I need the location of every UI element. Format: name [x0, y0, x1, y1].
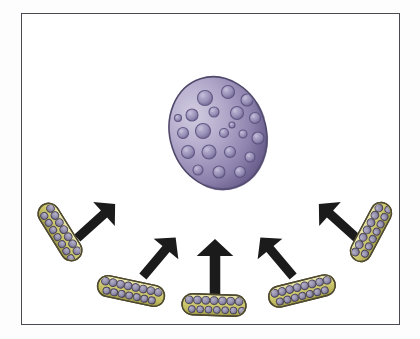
- cell-vesicle-highlight: [254, 134, 258, 138]
- arrow-inner-left: [131, 227, 188, 287]
- arrow-inner-right: [248, 227, 305, 287]
- cell-vesicle-highlight: [188, 111, 192, 115]
- bacterium-granule: [210, 297, 218, 305]
- cell-vesicle: [213, 166, 225, 178]
- cell-vesicle-highlight: [247, 154, 250, 157]
- cell-vesicle-highlight: [180, 130, 183, 133]
- cell-vesicle: [186, 109, 198, 121]
- cell-vesicle: [229, 122, 235, 128]
- cell-vesicle-highlight: [241, 132, 243, 134]
- bacterium-granule: [222, 307, 229, 314]
- cell-vesicle-highlight: [195, 167, 198, 170]
- cell-vesicle: [202, 145, 216, 159]
- cell-vesicle-highlight: [184, 148, 188, 152]
- cell-vesicle-highlight: [237, 169, 240, 172]
- cell-vesicle: [178, 128, 189, 139]
- figure-root: [0, 0, 420, 339]
- cell-vesicle-highlight: [205, 148, 209, 152]
- cell-vesicle: [252, 132, 264, 144]
- bacterium-granule: [188, 305, 195, 312]
- arrow-center: [197, 239, 234, 296]
- bacterium-granule: [205, 306, 212, 313]
- bacterium-lower-right: [266, 273, 337, 310]
- bacterium-lower-left: [96, 274, 167, 309]
- bacterium-granule: [218, 297, 226, 305]
- figure-canvas: [0, 0, 420, 339]
- bacterium-granule: [227, 297, 235, 305]
- cell-vesicle-highlight: [201, 93, 206, 98]
- cell-vesicle: [193, 165, 203, 175]
- cell-vesicle: [182, 146, 195, 159]
- cell-vesicle-highlight: [211, 109, 214, 112]
- cell-vesicle: [196, 124, 211, 139]
- arrow-shape: [248, 227, 305, 287]
- bacterium-granule: [202, 296, 210, 304]
- cell-vesicle-highlight: [227, 149, 230, 152]
- arrow-shape: [197, 239, 234, 296]
- bacterium-granule: [197, 306, 204, 313]
- cell-body: [155, 64, 282, 202]
- cell-vesicle: [222, 86, 235, 99]
- bacterium-granule: [193, 296, 201, 304]
- bacterium-granule: [230, 307, 237, 314]
- cell-vesicle: [175, 115, 182, 122]
- cell-vesicle: [209, 107, 219, 117]
- cell-vesicle: [198, 91, 213, 106]
- cell-vesicle: [220, 129, 229, 138]
- bacterium-center: [182, 293, 247, 316]
- cell-vesicle: [245, 152, 255, 162]
- cell-group: [155, 64, 282, 202]
- cell-vesicle-highlight: [176, 116, 178, 118]
- cell-vesicle-highlight: [199, 126, 204, 131]
- cell-vesicle: [239, 130, 247, 138]
- cell-vesicle-highlight: [224, 88, 228, 92]
- bacterium-granule: [213, 306, 220, 313]
- cell-vesicle-highlight: [215, 168, 219, 172]
- cell-vesicle: [225, 147, 236, 158]
- cell-vesicle-highlight: [243, 96, 247, 100]
- arrow-shape: [131, 227, 188, 287]
- cell-vesicle: [235, 167, 246, 178]
- cell-membrane: [155, 64, 282, 202]
- cell-vesicle: [231, 107, 244, 120]
- cell-vesicle-highlight: [252, 115, 255, 118]
- cell-vesicle-highlight: [230, 123, 232, 125]
- cell-vesicle-highlight: [233, 109, 237, 113]
- cell-vesicle: [250, 113, 261, 124]
- cell-vesicle-highlight: [221, 130, 224, 133]
